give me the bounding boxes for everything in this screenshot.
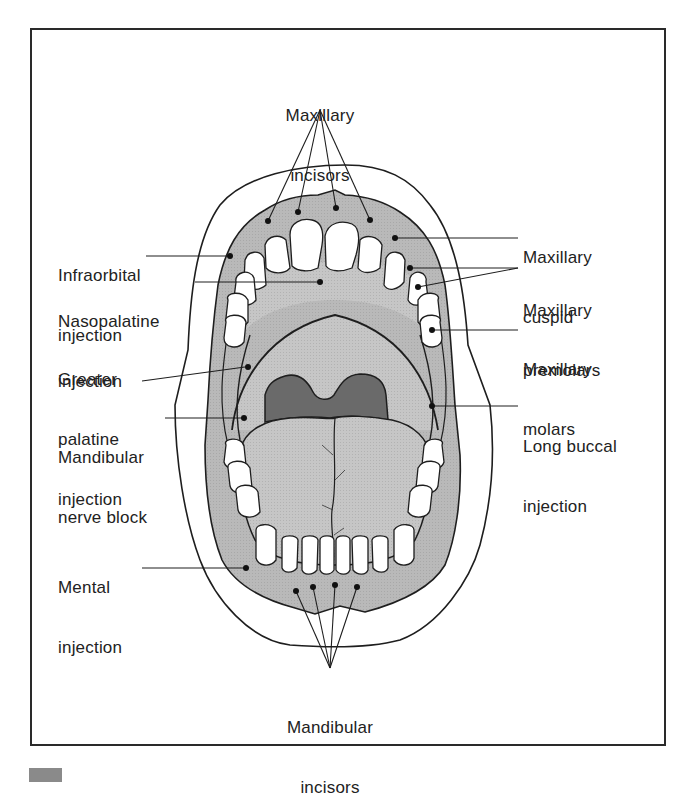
label-mandibular-nerve-block: Mandibular nerve block: [58, 408, 147, 548]
label-mental-injection: Mental injection: [58, 538, 122, 678]
gray-corner-swatch: [29, 768, 62, 782]
label-mandibular-incisors: Mandibular incisors: [270, 678, 390, 797]
label-long-buccal-injection: Long buccal injection: [523, 397, 617, 537]
label-maxillary-incisors: Maxillary incisors: [270, 66, 370, 206]
